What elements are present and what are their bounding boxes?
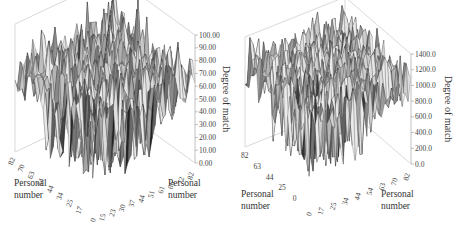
z-tick-label: 0.00 bbox=[199, 159, 212, 168]
z-axis: 0.0200.0400.0600.0800.01000.01200.01400.… bbox=[411, 50, 454, 169]
x-tick-label: 17 bbox=[74, 205, 85, 215]
x-tick-label: 44 bbox=[266, 173, 274, 182]
z-tick-label: 200.0 bbox=[415, 144, 432, 153]
surface-mesh bbox=[245, 6, 411, 177]
z-axis: 0.0010.0020.0030.0040.0050.0060.0070.008… bbox=[195, 31, 232, 168]
x-tick-label: 25 bbox=[278, 183, 286, 192]
z-tick-label: 600.0 bbox=[415, 112, 432, 121]
y-axis-label-line2: number bbox=[168, 190, 198, 200]
z-tick-label: 1200.0 bbox=[415, 65, 436, 74]
y-tick-label: 51 bbox=[146, 189, 157, 199]
x-tick-label: 63 bbox=[253, 162, 261, 171]
y-tick-label: 15 bbox=[97, 212, 108, 222]
z-tick-label: 60.00 bbox=[199, 82, 216, 91]
x-tick-label: 70 bbox=[16, 163, 27, 173]
z-tick-label: 70.00 bbox=[199, 69, 216, 78]
y-tick-label: 30 bbox=[117, 203, 128, 213]
z-tick-label: 50.00 bbox=[199, 95, 216, 104]
x-tick-label: 34 bbox=[54, 191, 65, 201]
z-tick-label: 10.00 bbox=[199, 146, 216, 155]
y-axis-label-line2: number bbox=[381, 201, 411, 211]
y-tick-label: 82 bbox=[401, 172, 412, 182]
z-tick-label: 1000.0 bbox=[415, 81, 436, 90]
chart-left-surface-plot: 0.0010.0020.0030.0040.0050.0060.0070.008… bbox=[0, 0, 235, 227]
y-tick-label: 54 bbox=[365, 186, 376, 196]
z-tick-label: 400.0 bbox=[415, 128, 432, 137]
x-axis-label-line2: number bbox=[241, 201, 271, 211]
x-axis-label: Personal bbox=[241, 189, 274, 199]
z-axis-label: Degree of match bbox=[221, 66, 232, 133]
surface-plot-right-canvas: 0.0200.0400.0600.0800.01000.01200.01400.… bbox=[235, 0, 463, 227]
x-axis-label: Personal bbox=[14, 178, 47, 188]
z-tick-label: 30.00 bbox=[199, 120, 216, 129]
y-tick-label: 17 bbox=[316, 206, 327, 216]
surface-plot-left-canvas: 0.0010.0020.0030.0040.0050.0060.0070.008… bbox=[0, 0, 235, 227]
chart-right-surface-plot: 0.0200.0400.0600.0800.01000.01200.01400.… bbox=[235, 0, 463, 227]
y-tick-label: 34 bbox=[340, 196, 351, 206]
z-tick-label: 800.0 bbox=[415, 97, 432, 106]
z-tick-label: 40.00 bbox=[199, 107, 216, 116]
y-axis-label: Personal bbox=[168, 178, 201, 188]
y-tick-label: 25 bbox=[328, 201, 339, 211]
z-tick-label: 20.00 bbox=[199, 133, 216, 142]
z-tick-label: 80.00 bbox=[199, 56, 216, 65]
z-tick-label: 0.0 bbox=[415, 160, 425, 169]
y-tick-label: 0 bbox=[304, 211, 314, 217]
y-tick-label: 61 bbox=[156, 185, 167, 195]
y-axis-label: Personal bbox=[381, 189, 414, 199]
z-tick-label: 100.00 bbox=[199, 31, 220, 40]
y-tick-label: 44 bbox=[352, 191, 363, 201]
x-axis-label-line2: number bbox=[14, 190, 44, 200]
z-axis-label: Degree of match bbox=[443, 76, 454, 143]
x-axis: 025446382Personalnumber bbox=[241, 151, 297, 211]
y-tick-label: 44 bbox=[136, 194, 147, 204]
x-tick-label: 0 bbox=[293, 194, 297, 203]
x-tick-label: 82 bbox=[6, 156, 17, 166]
z-tick-label: 1400.0 bbox=[415, 50, 436, 59]
y-axis: 01725344454637082Personalnumber bbox=[304, 172, 414, 217]
x-tick-label: 82 bbox=[241, 151, 249, 160]
y-tick-label: 70 bbox=[389, 177, 400, 187]
y-tick-label: 37 bbox=[126, 199, 137, 209]
x-axis: 1725344454637082Personalnumber bbox=[6, 156, 85, 215]
x-tick-label: 25 bbox=[64, 198, 75, 208]
y-tick-label: 23 bbox=[107, 208, 118, 218]
surface-mesh bbox=[15, 0, 195, 178]
z-tick-label: 90.00 bbox=[199, 43, 216, 52]
y-axis: 015233037445161667282Personalnumber bbox=[88, 171, 201, 223]
